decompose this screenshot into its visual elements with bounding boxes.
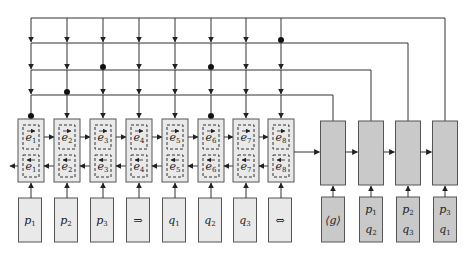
decoder-cell-4 [433,121,458,185]
boxes-layer: e1e1p1e2e2p2e3e3p3e4e4⇒e5e5q1e6e6q2e7e7q… [10,119,458,242]
attention-lines [28,18,445,121]
decoder-cell-3 [396,121,421,185]
dot-icon [100,64,106,70]
dot-icon [208,64,214,70]
decoder-cell-1 [321,121,346,185]
dot-icon [28,113,34,119]
input-token-label: ⇔ [275,214,284,227]
input-token-label: ⇒ [133,214,142,227]
dot-icon [64,89,70,95]
diagram-svg: e1e1p1e2e2p2e3e3p3e4e4⇒e5e5q1e6e6q2e7e7q… [0,0,473,259]
dot-icon [208,113,214,119]
decoder-cell-2 [359,121,384,185]
dot-icon [278,37,284,43]
encoder-decoder-diagram: e1e1p1e2e2p2e3e3p3e4e4⇒e5e5q1e6e6q2e7e7q… [0,0,473,259]
decoder-input-label: ⟨g⟩ [325,214,341,227]
